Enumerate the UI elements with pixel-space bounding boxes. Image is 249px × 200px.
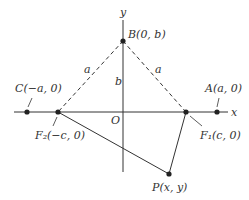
point-p-label: P(x, y) [151,181,187,194]
dashed-segment-b-f2 [58,41,123,112]
segment-f1-p [169,112,186,174]
point-c [24,109,29,114]
point-f1-label: F₁(c, 0) [199,129,241,142]
pointer-f2 [53,117,57,126]
dashed-segment-b-f1 [123,41,186,112]
point-p [166,171,171,176]
point-c-label: C(−a, 0) [15,82,62,95]
origin-label: O [111,114,120,127]
pointer-c [28,98,32,107]
vertical-segment-label: b [115,75,122,88]
x-axis-label: x [231,106,238,119]
point-f1 [183,109,188,114]
point-f2-label: F₂(−c, 0) [34,129,85,142]
ellipse-foci-diagram: y x O B(0, b) C(−a, 0) A(a, 0) F₂(−c, 0)… [0,0,249,200]
point-a-label: A(a, 0) [204,82,242,95]
right-segment-label: a [155,63,162,76]
pointer-a [217,98,219,107]
pointer-f1 [190,116,202,126]
left-segment-label: a [84,63,91,76]
y-axis-label: y [119,6,127,19]
point-b-label: B(0, b) [127,28,166,41]
point-f2 [55,109,60,114]
point-b [120,38,125,43]
point-a [214,109,219,114]
